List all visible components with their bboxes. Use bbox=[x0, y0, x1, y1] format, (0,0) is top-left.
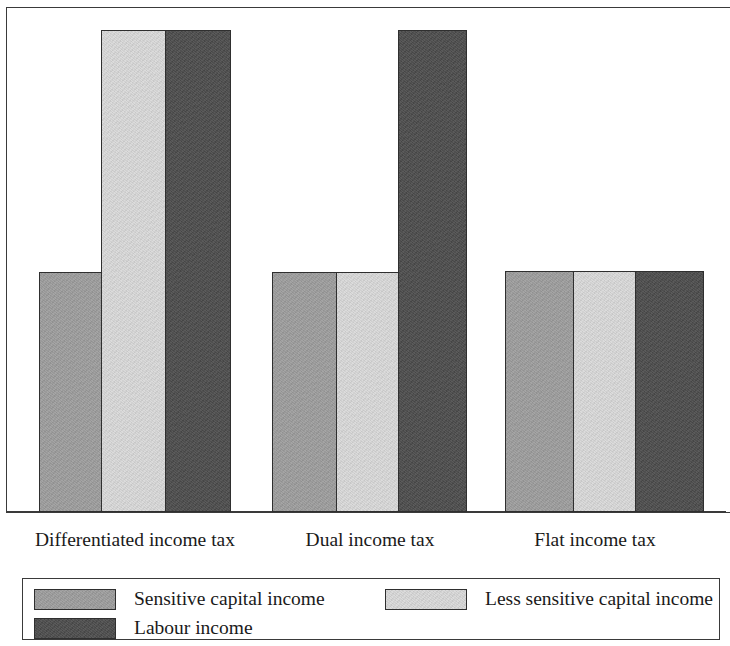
bar-dual-sensitive-capital-income bbox=[272, 272, 337, 512]
legend-label-sensitive-capital-income: Sensitive capital income bbox=[134, 588, 325, 610]
bar-differentiated-labour-income bbox=[165, 30, 231, 512]
legend-item-labour-income: Labour income bbox=[34, 617, 253, 639]
category-label-differentiated-income-tax: Differentiated income tax bbox=[0, 528, 270, 552]
legend-swatch-sensitive-capital-income bbox=[34, 589, 116, 610]
legend-item-sensitive-capital-income: Sensitive capital income bbox=[34, 588, 325, 610]
bar-flat-less-sensitive-capital-income bbox=[573, 271, 636, 512]
legend-item-less-sensitive-capital-income: Less sensitive capital income bbox=[385, 588, 713, 610]
legend-swatch-less-sensitive-capital-income bbox=[385, 589, 467, 610]
bar-flat-sensitive-capital-income bbox=[505, 271, 574, 512]
category-label-dual-income-tax: Dual income tax bbox=[270, 528, 470, 552]
bar-dual-labour-income bbox=[398, 30, 467, 512]
legend: Sensitive capital income Less sensitive … bbox=[22, 578, 720, 640]
bar-flat-labour-income bbox=[635, 271, 704, 512]
bar-differentiated-sensitive-capital-income bbox=[39, 272, 102, 512]
legend-label-less-sensitive-capital-income: Less sensitive capital income bbox=[485, 588, 713, 610]
bar-differentiated-less-sensitive-capital-income bbox=[101, 30, 166, 512]
legend-swatch-labour-income bbox=[34, 618, 116, 639]
bar-dual-less-sensitive-capital-income bbox=[336, 272, 399, 512]
legend-label-labour-income: Labour income bbox=[134, 617, 253, 639]
category-label-flat-income-tax: Flat income tax bbox=[480, 528, 710, 552]
